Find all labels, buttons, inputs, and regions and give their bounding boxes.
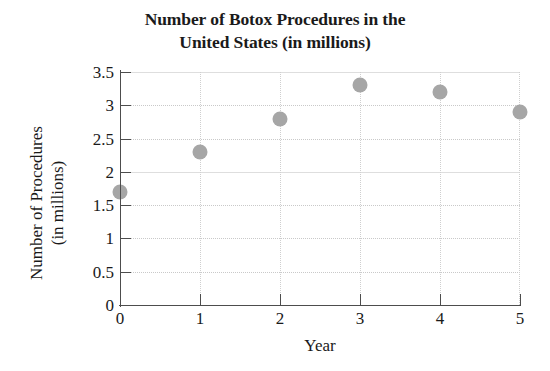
chart-title: Number of Botox Procedures in the United… [95, 8, 455, 54]
y-tick-label-2.5: 2.5 [68, 131, 114, 148]
gridline-y-1 [120, 238, 520, 239]
gridline-y-3.5 [120, 72, 520, 73]
gridline-x-4 [440, 72, 441, 305]
x-tick-1 [200, 294, 201, 305]
chart-title-line-1: Number of Botox Procedures in the [95, 8, 455, 31]
y-tick-label-2: 2 [68, 164, 114, 181]
data-point[interactable] [433, 84, 448, 99]
data-point[interactable] [193, 144, 208, 159]
y-tick-0.5 [120, 272, 131, 273]
gridline-x-2 [280, 72, 281, 305]
x-axis-line [119, 305, 521, 306]
y-tick-label-3.5: 3.5 [68, 64, 114, 81]
x-tick-label-2: 2 [265, 310, 295, 327]
gridline-y-2 [120, 172, 520, 173]
gridline-x-1 [200, 72, 201, 305]
gridline-y-3 [120, 105, 520, 106]
y-axis-title-text: Number of Procedures (in millions) [27, 126, 68, 280]
x-tick-4 [440, 294, 441, 305]
x-tick-label-0: 0 [105, 310, 135, 327]
x-tick-2 [280, 294, 281, 305]
y-axis-title-line-2: (in millions) [48, 126, 69, 280]
chart-title-line-2: United States (in millions) [95, 31, 455, 54]
y-tick-1.5 [120, 205, 131, 206]
gridline-x-3 [360, 72, 361, 305]
x-tick-label-1: 1 [185, 310, 215, 327]
y-tick-label-0.5: 0.5 [68, 264, 114, 281]
y-tick-1 [120, 238, 131, 239]
x-tick-label-3: 3 [345, 310, 375, 327]
y-tick-2.5 [120, 139, 131, 140]
gridline-y-2.5 [120, 139, 520, 140]
y-tick-label-1: 1 [68, 230, 114, 247]
x-tick-label-5: 5 [505, 310, 535, 327]
data-point[interactable] [353, 78, 368, 93]
y-axis-title-line-1: Number of Procedures [27, 126, 48, 280]
gridline-y-0.5 [120, 272, 520, 273]
x-axis-title: Year [120, 336, 520, 356]
data-point[interactable] [513, 104, 528, 119]
y-tick-3.5 [120, 72, 131, 73]
plot-area [120, 72, 520, 305]
y-tick-3 [120, 105, 131, 106]
x-tick-5 [520, 294, 521, 305]
x-tick-label-4: 4 [425, 310, 455, 327]
gridline-y-1.5 [120, 205, 520, 206]
data-point[interactable] [273, 111, 288, 126]
x-tick-3 [360, 294, 361, 305]
y-tick-label-3: 3 [68, 97, 114, 114]
y-tick-2 [120, 172, 131, 173]
y-tick-label-1.5: 1.5 [68, 197, 114, 214]
scatter-plot-figure: Number of Botox Procedures in the United… [0, 0, 550, 371]
